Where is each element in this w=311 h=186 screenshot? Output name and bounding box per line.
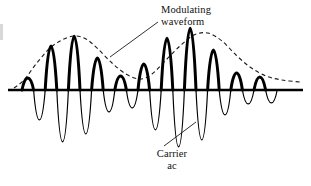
carrier-positive-halfcycles [22,28,266,90]
modulating-label-leader-line [110,22,158,57]
modulating-waveform-label: Modulating waveform [161,4,211,28]
carrier-ac-label-line2: ac [137,160,207,172]
modulating-waveform-label-line1: Modulating [161,4,211,16]
am-waveform-figure: Modulating waveform Carrier ac [0,0,311,186]
carrier-ac-label: Carrier ac [137,148,207,172]
carrier-ac-label-line1: Carrier [137,148,207,160]
carrier-negative-halfcycles [34,90,278,147]
modulating-waveform-label-line2: waveform [161,16,211,28]
carrier-label-leader-line [164,122,196,146]
